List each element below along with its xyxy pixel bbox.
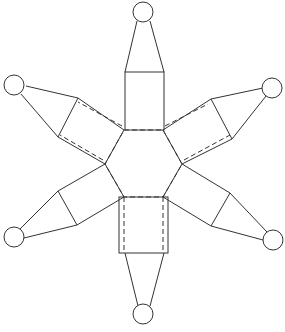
tip-circle-top	[133, 2, 153, 22]
tip-circle-upper-left	[4, 75, 24, 95]
star-net-diagram	[0, 0, 285, 332]
tip-circle-lower-left	[4, 227, 24, 247]
tip-circle-upper-right	[262, 78, 282, 98]
center-hexagon	[105, 130, 182, 197]
arm-lower-right	[163, 164, 283, 250]
arm-lower-left	[4, 164, 124, 247]
tip-circle-bottom	[133, 304, 153, 324]
arm-upper-right	[163, 78, 282, 164]
arm-bottom	[119, 197, 168, 324]
tip-circle-lower-right	[263, 230, 283, 250]
arm-upper-left	[4, 75, 124, 164]
arm-top	[125, 2, 164, 130]
